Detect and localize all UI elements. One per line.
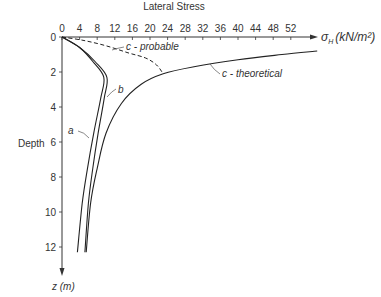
x-tick-label: 20 xyxy=(144,23,156,34)
x-axis-arrow-icon xyxy=(310,35,318,40)
x-tick-label: 28 xyxy=(180,23,192,34)
y-tick-label: 2 xyxy=(50,67,56,78)
x-tick-label: 12 xyxy=(109,23,121,34)
x-tick-label: 8 xyxy=(94,23,100,34)
lateral-stress-chart: Lateral Stress 0481216202428323640444852… xyxy=(0,0,381,297)
x-tick-label: 52 xyxy=(285,23,297,34)
leader-b xyxy=(107,89,116,97)
x-tick-label: 4 xyxy=(77,23,83,34)
label-b: b xyxy=(118,84,124,95)
curve-a xyxy=(62,37,104,252)
x-tick-label: 36 xyxy=(215,23,227,34)
y-axis-ticks: 024681012 xyxy=(45,32,62,253)
y-tick-label: 12 xyxy=(45,242,57,253)
y-axis-label: Depth xyxy=(18,138,45,149)
y-tick-label: 10 xyxy=(45,207,57,218)
leader-c-theoretical xyxy=(210,64,220,74)
x-tick-label: 40 xyxy=(232,23,244,34)
label-c-probable: c - probable xyxy=(126,41,179,52)
x-tick-label: 16 xyxy=(127,23,139,34)
x-tick-label: 44 xyxy=(250,23,262,34)
chart-title: Lateral Stress xyxy=(143,1,205,12)
y-tick-label: 0 xyxy=(50,32,56,43)
leader-a xyxy=(78,131,89,138)
curve-b xyxy=(62,37,107,252)
y-tick-label: 6 xyxy=(50,137,56,148)
label-c-theoretical: c - theoretical xyxy=(222,68,283,79)
y-axis-unit-label: z (m) xyxy=(51,281,75,292)
x-tick-label: 48 xyxy=(268,23,280,34)
y-tick-label: 4 xyxy=(50,102,56,113)
curve-c-theoretical xyxy=(86,51,317,252)
label-a: a xyxy=(68,125,74,136)
x-axis-symbol: σH(kN/m²) xyxy=(321,30,375,45)
x-tick-label: 32 xyxy=(197,23,209,34)
y-tick-label: 8 xyxy=(50,172,56,183)
y-axis-arrow-icon xyxy=(60,268,65,276)
x-tick-label: 24 xyxy=(162,23,174,34)
x-tick-label: 0 xyxy=(59,23,65,34)
